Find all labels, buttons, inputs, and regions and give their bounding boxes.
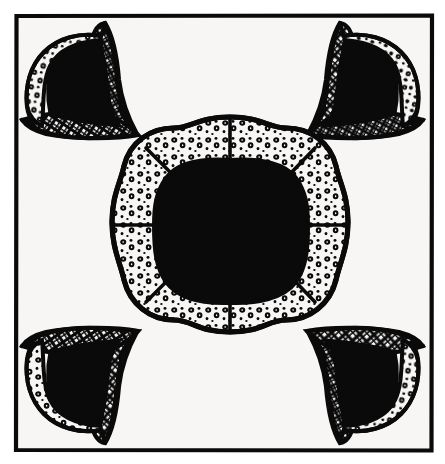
decorative-block-drawing xyxy=(0,0,445,464)
central-scalloped-flower xyxy=(110,116,350,334)
illustration-canvas: Hand-drawn decorative block illustration… xyxy=(0,0,445,464)
center-black-core xyxy=(154,160,308,303)
